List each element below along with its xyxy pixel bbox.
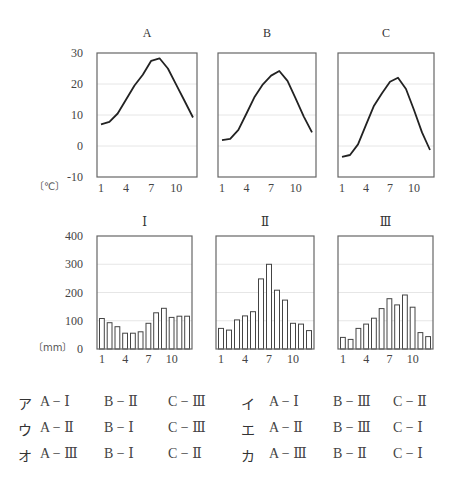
precipitation-bar: [283, 300, 288, 349]
precipitation-bar: [115, 327, 120, 349]
x-tick: 4: [122, 352, 128, 366]
x-tick: 10: [408, 181, 420, 195]
x-tick: 4: [244, 181, 250, 195]
precipitation-bar: [235, 320, 240, 349]
precipitation-bar: [267, 264, 272, 349]
precipitation-bar: [410, 307, 415, 349]
choice-a: A − Ⅰ: [269, 393, 299, 410]
precipitation-bar: [146, 323, 151, 349]
y-tick: 30: [71, 46, 83, 60]
choice-b: B − Ⅲ: [333, 393, 371, 410]
precipitation-bar: [341, 337, 346, 349]
precipitation-bar: [387, 299, 392, 349]
chart-title: B: [263, 26, 271, 40]
choice-b: B − Ⅰ: [104, 419, 134, 436]
x-tick: 10: [166, 352, 178, 366]
choice-c: C − Ⅲ: [168, 393, 206, 410]
choice-key: ウ: [18, 419, 32, 439]
precipitation-bar: [185, 316, 190, 349]
choice-a: A − Ⅰ: [40, 393, 70, 410]
choice-a: A − Ⅲ: [40, 445, 78, 462]
temperature-line: [101, 58, 193, 124]
x-tick: 4: [242, 352, 248, 366]
precipitation-bar: [251, 312, 256, 349]
answer-choices: ア A − Ⅰ B − Ⅱ C − Ⅲ イ A − Ⅰ B − Ⅲ C − Ⅱ …: [18, 393, 458, 471]
y-unit-label: 〔℃〕: [34, 181, 65, 192]
x-tick: 10: [287, 352, 299, 366]
choice-a: A − Ⅱ: [269, 419, 303, 436]
precipitation-bar: [131, 333, 136, 349]
choice-b: B − Ⅱ: [104, 393, 138, 410]
x-tick: 7: [387, 181, 393, 195]
precipitation-bar: [418, 333, 423, 349]
choice-c: C − Ⅲ: [168, 419, 206, 436]
y-tick: 20: [71, 77, 83, 91]
x-tick: 1: [339, 181, 345, 195]
choice-row: ウ A − Ⅱ B − Ⅰ C − Ⅲ エ A − Ⅱ B − Ⅲ C − Ⅰ: [18, 419, 458, 445]
x-tick: 10: [170, 181, 182, 195]
x-tick: 10: [290, 181, 302, 195]
chart-title: Ⅰ: [142, 215, 147, 229]
precipitation-bar: [426, 337, 431, 349]
choice-a: A − Ⅱ: [40, 419, 74, 436]
precipitation-bar: [348, 339, 353, 349]
precipitation-bar: [291, 323, 296, 349]
precipitation-bar: [123, 333, 128, 349]
chart-title: C: [382, 26, 390, 40]
choice-a: A − Ⅲ: [269, 445, 307, 462]
climate-charts: A147103020100-10〔℃〕B14710C14710Ⅰ14710400…: [0, 0, 458, 380]
choice-row: オ A − Ⅲ B − Ⅰ C − Ⅱ カ A − Ⅲ B − Ⅱ C − Ⅰ: [18, 445, 458, 471]
choice-row: ア A − Ⅰ B − Ⅱ C − Ⅲ イ A − Ⅰ B − Ⅲ C − Ⅱ: [18, 393, 458, 419]
precipitation-bar: [177, 316, 182, 349]
precipitation-bar: [364, 324, 369, 349]
x-tick: 10: [407, 352, 419, 366]
choice-c: C − Ⅰ: [393, 419, 423, 436]
precipitation-bar: [395, 305, 400, 349]
x-tick: 1: [98, 181, 104, 195]
choice-c: C − Ⅰ: [393, 445, 423, 462]
x-tick: 7: [148, 181, 154, 195]
choice-key: イ: [241, 393, 255, 413]
precipitation-bar: [100, 319, 105, 350]
y-tick: -10: [67, 170, 83, 184]
temperature-line: [342, 78, 430, 157]
precipitation-bar: [379, 309, 384, 349]
y-tick: 300: [65, 257, 83, 271]
x-tick: 7: [268, 181, 274, 195]
precipitation-bar: [372, 318, 377, 349]
x-tick: 7: [145, 352, 151, 366]
precipitation-bar: [107, 323, 112, 349]
choice-c: C − Ⅱ: [393, 393, 427, 410]
choice-b: B − Ⅰ: [104, 445, 134, 462]
y-tick: 200: [65, 286, 83, 300]
x-tick: 7: [266, 352, 272, 366]
choice-key: エ: [241, 419, 255, 439]
chart-title: Ⅲ: [380, 215, 392, 229]
x-tick: 4: [363, 181, 369, 195]
choice-b: B − Ⅱ: [333, 445, 367, 462]
y-tick: 10: [71, 108, 83, 122]
precipitation-bar: [162, 308, 167, 349]
precipitation-bar: [227, 330, 232, 349]
y-tick: 100: [65, 314, 83, 328]
precipitation-bar: [307, 331, 312, 349]
choice-key: カ: [241, 445, 255, 465]
precipitation-bar: [138, 332, 143, 349]
x-tick: 4: [123, 181, 129, 195]
chart-title: A: [143, 26, 152, 40]
precipitation-bar: [299, 324, 304, 349]
precipitation-bar: [219, 328, 224, 349]
chart-title: Ⅱ: [261, 215, 269, 229]
precipitation-bar: [356, 328, 361, 349]
x-tick: 7: [386, 352, 392, 366]
precipitation-bar: [275, 290, 280, 349]
choice-key: オ: [18, 445, 32, 465]
precipitation-bar: [243, 316, 248, 349]
precipitation-bar: [154, 313, 159, 349]
y-tick: 0: [77, 139, 83, 153]
temperature-line: [222, 71, 312, 140]
choice-b: B − Ⅲ: [333, 419, 371, 436]
precipitation-bar: [259, 279, 264, 349]
x-tick: 1: [219, 181, 225, 195]
precipitation-bar: [169, 317, 174, 349]
